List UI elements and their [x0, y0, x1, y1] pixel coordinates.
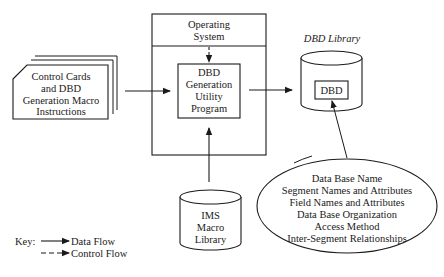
utility-program-box: DBD Generation Utility Program	[178, 64, 240, 118]
dbd-library-cylinder: DBD Library DBD	[301, 33, 362, 111]
cards-line-3: Generation Macro	[23, 95, 100, 106]
contents-line-1: Data Base Name	[312, 173, 383, 184]
dbd-contents-ellipse: Data Base Name Segment Names and Attribu…	[257, 156, 437, 253]
ims-macro-library-cylinder: IMS Macro Library	[180, 190, 241, 250]
program-line-2: Generation	[186, 79, 233, 90]
os-line-2: System	[194, 31, 225, 42]
cards-line-2: and DBD	[41, 83, 81, 94]
cards-line-4: Instructions	[36, 106, 86, 117]
ellipse-accent-stroke	[294, 156, 312, 163]
dbd-generation-diagram: Control Cards and DBD Generation Macro I…	[0, 0, 444, 277]
contents-line-4: Data Base Organization	[297, 209, 398, 220]
legend-key-label: Key:	[15, 236, 35, 247]
contents-line-3: Field Names and Attributes	[289, 197, 404, 208]
ims-line-1: IMS	[201, 210, 220, 221]
contents-line-5: Access Method	[314, 221, 380, 232]
input-cards-stack: Control Cards and DBD Generation Macro I…	[13, 56, 117, 119]
dbd-library-label: DBD Library	[303, 33, 361, 44]
os-line-1: Operating	[188, 19, 231, 30]
contents-line-2: Segment Names and Attributes	[282, 185, 412, 196]
program-line-3: Utility	[195, 91, 223, 102]
legend: Key: Data Flow Control Flow	[15, 236, 128, 259]
legend-data-flow-label: Data Flow	[71, 236, 115, 247]
dbd-inner-label: DBD	[320, 85, 343, 96]
contents-line-6: Inter-Segment Relationships	[287, 233, 407, 244]
legend-control-flow-label: Control Flow	[71, 248, 128, 259]
program-line-4: Program	[191, 103, 227, 114]
program-line-1: DBD	[198, 67, 221, 78]
cards-line-1: Control Cards	[31, 71, 90, 82]
ims-line-2: Macro	[197, 222, 224, 233]
ims-line-3: Library	[195, 234, 227, 245]
